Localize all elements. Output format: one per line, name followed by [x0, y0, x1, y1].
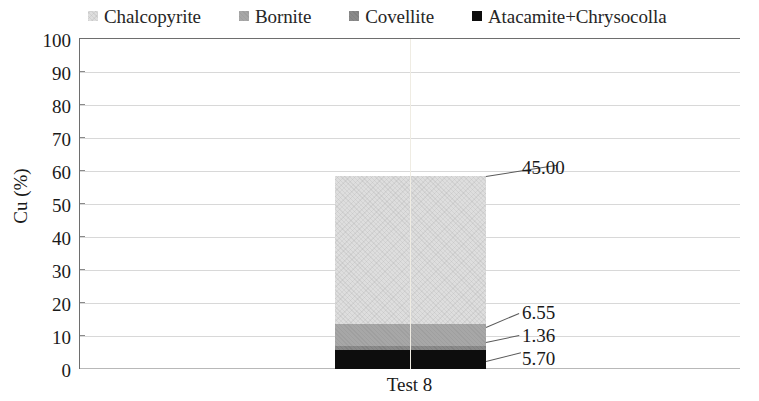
legend-swatch-icon-chalcopyrite	[88, 11, 98, 21]
legend-swatch-icon-bornite	[239, 11, 249, 21]
legend-swatch-icon-covellite	[349, 11, 359, 21]
category-divider	[410, 39, 411, 369]
legend-item-covellite[interactable]: Covellite	[349, 7, 434, 26]
legend-item-atacamite-chrysocolla[interactable]: Atacamite+Chrysocolla	[472, 7, 667, 26]
y-tick-0: 0	[15, 361, 71, 380]
y-tick-30: 30	[15, 262, 71, 281]
y-axis-tick-labels: 100 90 80 70 60 50 40 30 20 10 0	[9, 38, 71, 369]
y-tick-70: 70	[15, 130, 71, 149]
data-label-atacamite-chrysocolla: 5.70	[522, 349, 555, 368]
legend-item-chalcopyrite[interactable]: Chalcopyrite	[88, 7, 201, 26]
y-tick-80: 80	[15, 97, 71, 116]
legend-label-bornite: Bornite	[255, 7, 311, 26]
y-tick-10: 10	[15, 328, 71, 347]
y-tick-50: 50	[15, 196, 71, 215]
legend-label-atacamite-chrysocolla: Atacamite+Chrysocolla	[488, 7, 667, 26]
leader-line-atacamite	[486, 352, 521, 362]
data-label-covellite: 1.36	[522, 326, 555, 345]
stacked-bar-chart: Chalcopyrite Bornite Covellite Atacamite…	[0, 0, 759, 401]
legend-label-covellite: Covellite	[365, 7, 434, 26]
chart-legend: Chalcopyrite Bornite Covellite Atacamite…	[88, 4, 738, 28]
leader-line-bornite	[486, 313, 520, 328]
y-tick-90: 90	[15, 64, 71, 83]
y-tick-20: 20	[15, 295, 71, 314]
legend-swatch-icon-atacamite-chrysocolla	[472, 11, 482, 21]
data-label-chalcopyrite: 45.00	[522, 158, 565, 177]
x-axis-category-test-8: Test 8	[334, 374, 485, 396]
legend-item-bornite[interactable]: Bornite	[239, 7, 311, 26]
y-tick-60: 60	[15, 163, 71, 182]
plot-area: 45.00 6.55 1.36 5.70	[79, 38, 740, 369]
y-tick-100: 100	[15, 31, 71, 50]
y-tick-40: 40	[15, 229, 71, 248]
legend-label-chalcopyrite: Chalcopyrite	[104, 7, 201, 26]
data-label-bornite: 6.55	[522, 303, 555, 322]
